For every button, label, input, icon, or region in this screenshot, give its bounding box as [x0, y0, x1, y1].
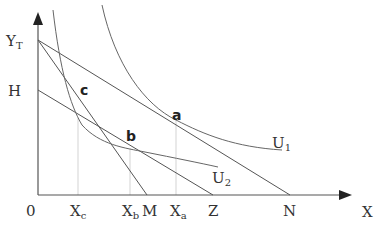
- label-xa: Xa: [170, 202, 187, 221]
- label-n: N: [283, 202, 296, 220]
- label-xc: Xc: [70, 202, 87, 221]
- label-origin: 0: [26, 202, 36, 220]
- label-x-axis: X: [362, 203, 373, 221]
- label-m: M: [142, 202, 157, 220]
- label-yt: YT: [5, 32, 23, 51]
- y-axis-arrow-icon: [33, 12, 43, 25]
- x-axis-arrow-icon: [339, 190, 352, 200]
- label-xb: Xb: [122, 202, 139, 221]
- budget-line-yt-m: [38, 40, 147, 195]
- label-u2: U2: [212, 169, 231, 188]
- budget-line-yt-n: [38, 40, 290, 195]
- point-c-label: c: [80, 82, 88, 98]
- point-b-label: b: [126, 128, 136, 144]
- diagram-canvas: YT H 0 Xc Xb M Xa Z N X a b c U1 U2: [0, 0, 387, 231]
- point-a-label: a: [172, 107, 181, 123]
- label-z: Z: [208, 202, 218, 220]
- label-u1: U1: [272, 134, 291, 153]
- label-h: H: [8, 82, 21, 100]
